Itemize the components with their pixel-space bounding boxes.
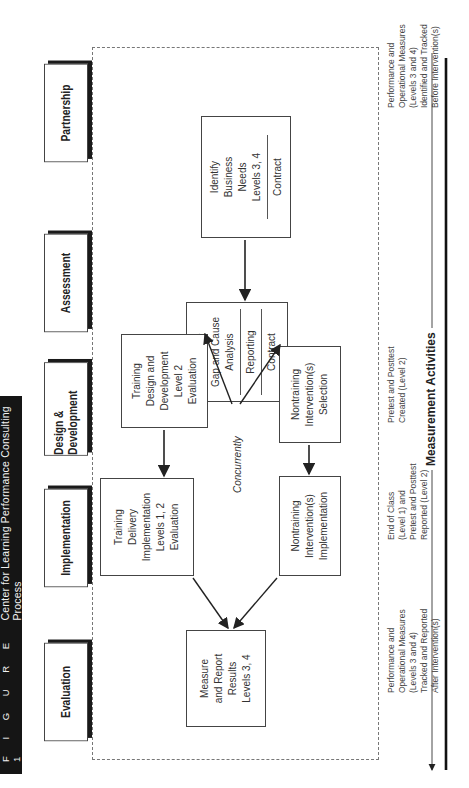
measurement-activities-label: Measurement Activities [424,328,438,470]
rotated-page: F I G U R E 1 Center for Learning Perfor… [0,0,469,788]
connector-arrows [0,0,469,788]
